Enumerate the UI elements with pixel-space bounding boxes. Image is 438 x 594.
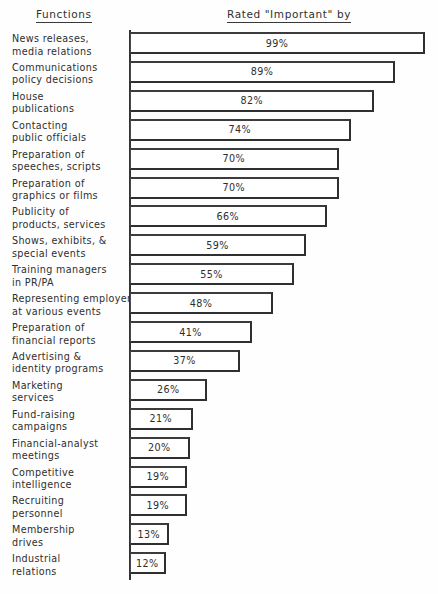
bar-value-label: 59% xyxy=(206,240,229,251)
bar-row-label-line2: campaigns xyxy=(12,421,127,433)
bar-row: Fund-raisingcampaigns21% xyxy=(0,406,438,437)
bar-value-label: 82% xyxy=(240,95,263,106)
bar-value-label: 26% xyxy=(157,384,180,395)
bar-row-label: Preparation ofgraphics or films xyxy=(12,175,127,206)
bar-row-label-line1: News releases, xyxy=(12,33,127,45)
bar-row: Preparation offinancial reports41% xyxy=(0,319,438,350)
bar-row-label: Marketingservices xyxy=(12,377,127,408)
bar-row-label-line2: speeches, scripts xyxy=(12,161,127,173)
bar-row: Housepublications82% xyxy=(0,88,438,119)
bar-row-label-line1: Fund-raising xyxy=(12,409,127,421)
bar-row: Contactingpublic officials74% xyxy=(0,117,438,148)
bar-row: Marketingservices26% xyxy=(0,377,438,408)
bar-row-label: Advertising &identity programs xyxy=(12,348,127,379)
bar-row: Membershipdrives13% xyxy=(0,521,438,552)
bar-row-label-line1: Recruiting xyxy=(12,495,127,507)
bar: 59% xyxy=(130,234,306,256)
bar: 41% xyxy=(130,321,252,343)
bar-row-label-line2: intelligence xyxy=(12,479,127,491)
bar-row-label: Financial-analystmeetings xyxy=(12,435,127,466)
bar-row-label: Fund-raisingcampaigns xyxy=(12,406,127,437)
bar: 89% xyxy=(130,61,395,83)
bar: 66% xyxy=(130,205,327,227)
bar-row-label-line1: Preparation of xyxy=(12,322,127,334)
bar-row-label-line1: Membership xyxy=(12,524,127,536)
bar: 21% xyxy=(130,408,193,430)
bar-value-label: 66% xyxy=(217,211,240,222)
bar: 70% xyxy=(130,177,339,199)
bar-row-label-line1: Preparation of xyxy=(12,149,127,161)
bar: 20% xyxy=(130,437,190,459)
column-headers: Functions Rated "Important" by xyxy=(0,8,438,28)
bar-row: Financial-analystmeetings20% xyxy=(0,435,438,466)
bar: 12% xyxy=(130,552,166,574)
bar-row: Recruitingpersonnel19% xyxy=(0,492,438,523)
bar-row-label-line1: Contacting xyxy=(12,120,127,132)
bar-row-label: Publicity ofproducts, services xyxy=(12,203,127,234)
bar: 99% xyxy=(130,32,425,54)
bar-row-label-line2: public officials xyxy=(12,132,127,144)
bar-row-label-line2: drives xyxy=(12,537,127,549)
bar-row: Advertising &identity programs37% xyxy=(0,348,438,379)
plot-area: News releases,media relations99%Communic… xyxy=(0,30,438,586)
bar-row-label-line1: Training managers xyxy=(12,264,127,276)
bar-row: Competitiveintelligence19% xyxy=(0,464,438,495)
bar-value-label: 19% xyxy=(147,471,170,482)
bar-row-label-line1: Advertising & xyxy=(12,351,127,363)
bar: 19% xyxy=(130,466,187,488)
bar-row-label-line2: media relations xyxy=(12,46,127,58)
bar-value-label: 99% xyxy=(266,38,289,49)
bar-row-label-line1: Publicity of xyxy=(12,206,127,218)
bar-row-label-line2: services xyxy=(12,392,127,404)
bar-value-label: 89% xyxy=(251,66,274,77)
bar-row-label: Contactingpublic officials xyxy=(12,117,127,148)
bar-value-label: 20% xyxy=(148,442,171,453)
bar: 13% xyxy=(130,523,169,545)
bar-row-label: Membershipdrives xyxy=(12,521,127,552)
bar-row-label-line1: Financial-analyst xyxy=(12,438,127,450)
bar-row: Communicationspolicy decisions89% xyxy=(0,59,438,90)
bar-row-label-line2: policy decisions xyxy=(12,74,127,86)
bar-row-label-line2: publications xyxy=(12,103,127,115)
bar-value-label: 12% xyxy=(136,558,159,569)
bar-value-label: 21% xyxy=(150,413,173,424)
bar-row-label-line1: Representing employer xyxy=(12,293,127,305)
bar-row-label-line1: Shows, exhibits, & xyxy=(12,235,127,247)
bar-row-label: Competitiveintelligence xyxy=(12,464,127,495)
bar: 26% xyxy=(130,379,207,401)
bar-row: Representing employerat various events48… xyxy=(0,290,438,321)
bar-row-label: Preparation offinancial reports xyxy=(12,319,127,350)
bar-row-label: Industrialrelations xyxy=(12,550,127,581)
bar-row-label-line1: Industrial xyxy=(12,553,127,565)
bar-row-label-line1: House xyxy=(12,91,127,103)
bar-row-label: Communicationspolicy decisions xyxy=(12,59,127,90)
bar: 19% xyxy=(130,494,187,516)
bar-row: Shows, exhibits, &special events59% xyxy=(0,232,438,263)
bar-value-label: 41% xyxy=(179,327,202,338)
bar-row-label: Representing employerat various events xyxy=(12,290,127,321)
bar-row: Publicity ofproducts, services66% xyxy=(0,203,438,234)
bar-row-label-line2: at various events xyxy=(12,306,127,318)
bar-row: News releases,media relations99% xyxy=(0,30,438,61)
bar-row-label: Preparation ofspeeches, scripts xyxy=(12,146,127,177)
bar-value-label: 37% xyxy=(173,355,196,366)
bar-row-label: News releases,media relations xyxy=(12,30,127,61)
bar-row-label-line2: products, services xyxy=(12,219,127,231)
header-functions: Functions xyxy=(36,8,92,23)
bar-row: Training managersin PR/PA55% xyxy=(0,261,438,292)
bar-row: Industrialrelations12% xyxy=(0,550,438,581)
bar-row-label: Shows, exhibits, &special events xyxy=(12,232,127,263)
bar-row-label-line1: Competitive xyxy=(12,467,127,479)
bar-row-label-line2: meetings xyxy=(12,450,127,462)
bar-row-label-line2: graphics or films xyxy=(12,190,127,202)
bar-chart-figure: Functions Rated "Important" by News rele… xyxy=(0,0,438,594)
bar-value-label: 48% xyxy=(190,298,213,309)
bar-row-label-line2: financial reports xyxy=(12,335,127,347)
bar-value-label: 13% xyxy=(138,529,161,540)
bar-row-label-line2: relations xyxy=(12,566,127,578)
bar: 82% xyxy=(130,90,374,112)
bar: 48% xyxy=(130,292,273,314)
bar-row: Preparation ofspeeches, scripts70% xyxy=(0,146,438,177)
bar-row-label-line1: Preparation of xyxy=(12,178,127,190)
bar-value-label: 55% xyxy=(200,269,223,280)
